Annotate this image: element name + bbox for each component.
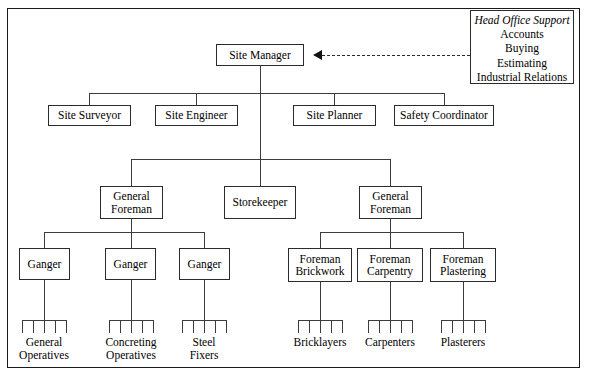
- head-office-to-site-manager-link: [322, 55, 470, 56]
- node-foreman-plastering[interactable]: Foreman Plastering: [430, 248, 496, 282]
- comb-tooth: [44, 320, 45, 333]
- comb-tooth: [368, 320, 369, 333]
- node-site-engineer[interactable]: Site Engineer: [155, 105, 238, 126]
- node-ganger-1[interactable]: Ganger: [19, 248, 70, 280]
- node-general-foreman-left[interactable]: General Foreman: [100, 186, 163, 219]
- connector-drop-foreman-brickwork: [320, 232, 321, 248]
- node-site-surveyor[interactable]: Site Surveyor: [48, 105, 131, 126]
- connector-drop-general-foreman-left: [131, 159, 132, 186]
- node-site-planner-label: Site Planner: [307, 109, 363, 122]
- node-ganger-3-label: Ganger: [188, 258, 222, 271]
- node-general-foreman-left-label-line1: General: [113, 190, 149, 203]
- comb-tooth: [320, 320, 321, 333]
- comb-tooth: [474, 320, 475, 333]
- node-ganger-2[interactable]: Ganger: [105, 248, 156, 280]
- node-foreman-plastering-label-line1: Foreman: [443, 253, 484, 266]
- node-safety-coordinator-label: Safety Coordinator: [400, 109, 488, 122]
- connector-drop-general-foreman-right: [390, 159, 391, 186]
- comb-tooth: [182, 320, 183, 333]
- connector-foreman-brickwork-stem: [320, 282, 321, 320]
- leaf-steel-fixers-line1: Steel: [164, 336, 244, 349]
- connector-level2-bus: [89, 93, 445, 94]
- head-office-support-box: Head Office Support Accounts Buying Esti…: [470, 10, 574, 84]
- comb-tooth: [109, 320, 110, 333]
- comb-tooth: [142, 320, 143, 333]
- node-ganger-1-label: Ganger: [28, 258, 62, 271]
- arrow-left-icon: [313, 50, 322, 60]
- node-ganger-2-label: Ganger: [114, 258, 148, 271]
- head-office-item-buying: Buying: [471, 41, 573, 55]
- head-office-item-industrial-relations: Industrial Relations: [471, 70, 573, 84]
- comb-tooth: [120, 320, 121, 333]
- leaf-plasterers-line1: Plasterers: [423, 336, 503, 349]
- node-ganger-3[interactable]: Ganger: [179, 248, 230, 280]
- node-general-foreman-right-label-line1: General: [372, 190, 408, 203]
- comb-tooth: [331, 320, 332, 333]
- comb-tooth: [153, 320, 154, 333]
- connector-general-foreman-right-stem: [390, 219, 391, 232]
- comb-tooth: [22, 320, 23, 333]
- connector-foreman-plastering-stem: [463, 282, 464, 320]
- connector-level3-bus: [131, 159, 390, 160]
- comb-tooth: [66, 320, 67, 333]
- connector-trade-foreman-bus: [320, 232, 463, 233]
- node-general-foreman-right[interactable]: General Foreman: [359, 186, 422, 219]
- comb-tooth: [412, 320, 413, 333]
- node-storekeeper[interactable]: Storekeeper: [224, 186, 296, 219]
- leaf-concreting-operatives-line1: Concreting: [91, 336, 171, 349]
- node-foreman-brickwork-label-line1: Foreman: [300, 253, 341, 266]
- node-site-planner[interactable]: Site Planner: [293, 105, 376, 126]
- comb-tooth: [55, 320, 56, 333]
- leaf-bricklayers-line1: Bricklayers: [280, 336, 360, 349]
- connector-drop-site-planner: [334, 93, 335, 105]
- node-general-foreman-left-label-line2: Foreman: [111, 203, 152, 216]
- connector-ganger-2-stem: [131, 280, 132, 320]
- comb-tooth: [131, 320, 132, 333]
- comb-tooth: [441, 320, 442, 333]
- node-safety-coordinator[interactable]: Safety Coordinator: [394, 105, 494, 126]
- comb-tooth: [298, 320, 299, 333]
- node-site-surveyor-label: Site Surveyor: [58, 109, 121, 122]
- connector-foreman-carpentry-stem: [390, 282, 391, 320]
- leaf-concreting-operatives-line2: Operatives: [91, 349, 171, 362]
- connector-drop-ganger-1: [44, 232, 45, 248]
- leaf-carpenters: Carpenters: [350, 336, 430, 349]
- head-office-title: Head Office Support: [471, 13, 573, 27]
- node-foreman-brickwork-label-line2: Brickwork: [295, 265, 344, 278]
- node-foreman-brickwork[interactable]: Foreman Brickwork: [288, 248, 352, 282]
- connector-drop-site-engineer: [196, 93, 197, 105]
- connector-ganger-bus: [44, 232, 204, 233]
- comb-tooth: [452, 320, 453, 333]
- node-site-engineer-label: Site Engineer: [165, 109, 227, 122]
- node-site-manager-label: Site Manager: [229, 49, 291, 62]
- connector-drop-safety-coordinator: [444, 93, 445, 105]
- comb-tooth: [390, 320, 391, 333]
- leaf-general-operatives-line1: General: [4, 336, 84, 349]
- comb-steel-fixers: [182, 320, 227, 334]
- comb-carpenters: [368, 320, 413, 334]
- node-site-manager[interactable]: Site Manager: [216, 44, 304, 66]
- leaf-concreting-operatives: Concreting Operatives: [91, 336, 171, 362]
- connector-drop-foreman-plastering: [463, 232, 464, 248]
- node-foreman-carpentry-label-line2: Carpentry: [367, 265, 413, 278]
- node-general-foreman-right-label-line2: Foreman: [370, 203, 411, 216]
- comb-tooth: [342, 320, 343, 333]
- org-chart-canvas: Head Office Support Accounts Buying Esti…: [0, 0, 590, 383]
- connector-ganger-1-stem: [44, 280, 45, 320]
- connector-ganger-3-stem: [204, 280, 205, 320]
- connector-general-foreman-left-stem: [131, 219, 132, 232]
- node-foreman-plastering-label-line2: Plastering: [440, 265, 486, 278]
- connector-drop-site-surveyor: [89, 93, 90, 105]
- leaf-steel-fixers: Steel Fixers: [164, 336, 244, 362]
- comb-general-operatives: [22, 320, 67, 334]
- leaf-plasterers: Plasterers: [423, 336, 503, 349]
- node-foreman-carpentry[interactable]: Foreman Carpentry: [357, 248, 423, 282]
- comb-tooth: [309, 320, 310, 333]
- comb-tooth: [226, 320, 227, 333]
- comb-tooth: [215, 320, 216, 333]
- connector-site-manager-spine: [260, 66, 261, 186]
- comb-plasterers: [441, 320, 486, 334]
- leaf-steel-fixers-line2: Fixers: [164, 349, 244, 362]
- comb-concreting-operatives: [109, 320, 154, 334]
- comb-bricklayers: [298, 320, 343, 334]
